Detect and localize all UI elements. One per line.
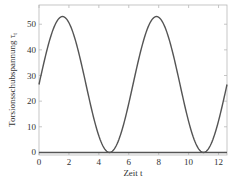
y-tick-label: 30 xyxy=(27,71,37,81)
x-tick-label: 2 xyxy=(67,157,72,167)
y-tick-label: 10 xyxy=(27,122,37,132)
x-tick-label: 4 xyxy=(97,157,102,167)
x-tick-label: 12 xyxy=(214,157,223,167)
plot-area xyxy=(39,5,227,155)
x-axis-label: Zeit t xyxy=(123,168,143,178)
y-tick-label: 20 xyxy=(27,96,37,106)
chart: 01020304050 024681012 Zeit t Torsionssch… xyxy=(0,0,240,186)
x-tick-label: 8 xyxy=(156,157,161,167)
y-tick-label: 0 xyxy=(32,147,37,157)
x-tick-label: 0 xyxy=(37,157,42,167)
x-tick-label: 10 xyxy=(184,157,194,167)
y-axis-label: Torsionsschubspannung τt xyxy=(7,33,18,127)
x-tick-label: 6 xyxy=(127,157,132,167)
y-tick-label: 40 xyxy=(27,45,37,55)
y-tick-label: 50 xyxy=(27,19,37,29)
